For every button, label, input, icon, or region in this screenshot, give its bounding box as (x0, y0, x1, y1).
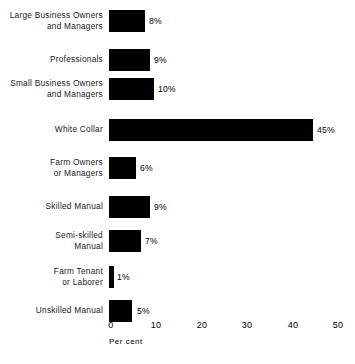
x-tick-label: 30 (242, 320, 253, 330)
bar-row: White Collar 45% (0, 119, 355, 141)
value-label: 45% (317, 125, 335, 135)
category-label: Unskilled Manual (0, 305, 103, 316)
value-label: 9% (154, 202, 167, 212)
x-axis: 0 10 20 30 40 50 Per cent (0, 320, 355, 364)
category-label: Skilled Manual (0, 201, 103, 212)
category-label: Large Business Owners and Managers (0, 10, 103, 32)
category-label: White Collar (0, 124, 103, 135)
x-tick-label: 40 (288, 320, 299, 330)
x-tick-label: 50 (333, 320, 344, 330)
bar-row: Farm Tenant or Laborer 1% (0, 266, 355, 288)
bar-row: Small Business Owners and Managers 10% (0, 78, 355, 100)
category-label: Professionals (0, 54, 103, 65)
bar-row: Semi-skilled Manual 7% (0, 230, 355, 252)
value-label: 8% (149, 16, 162, 26)
category-label: Semi-skilled Manual (0, 230, 103, 252)
bar (109, 230, 141, 252)
bar (109, 49, 150, 71)
category-label: Farm Owners or Managers (0, 157, 103, 179)
bar-row: Large Business Owners and Managers 8% (0, 10, 355, 32)
value-label: 6% (140, 163, 153, 173)
bar-chart: Large Business Owners and Managers 8% Pr… (0, 0, 355, 364)
category-label: Small Business Owners and Managers (0, 78, 103, 100)
bar (109, 196, 150, 218)
value-label: 9% (154, 55, 167, 65)
bar-row: Farm Owners or Managers 6% (0, 157, 355, 179)
bar (109, 266, 114, 288)
bar (109, 119, 313, 141)
bar (109, 78, 154, 100)
x-tick-label: 20 (197, 320, 208, 330)
value-label: 7% (145, 236, 158, 246)
bar-row: Skilled Manual 9% (0, 196, 355, 218)
value-label: 10% (158, 84, 176, 94)
value-label: 1% (117, 272, 130, 282)
bar (109, 157, 136, 179)
bar-row: Unskilled Manual 5% (0, 300, 355, 322)
x-tick-label: 10 (151, 320, 162, 330)
bar (109, 10, 145, 32)
plot-area: Large Business Owners and Managers 8% Pr… (0, 0, 355, 320)
x-tick-label: 0 (108, 320, 113, 330)
value-label: 5% (137, 306, 150, 316)
bar-row: Professionals 9% (0, 49, 355, 71)
x-axis-title: Per cent (109, 337, 143, 346)
bar (109, 300, 132, 322)
category-label: Farm Tenant or Laborer (0, 266, 103, 288)
